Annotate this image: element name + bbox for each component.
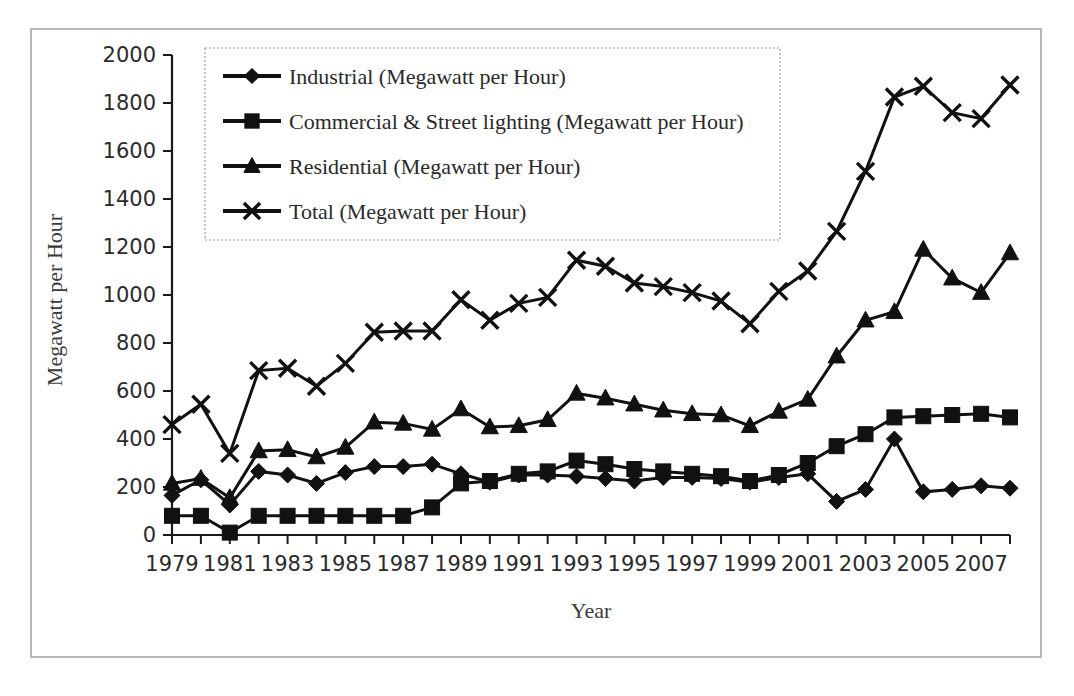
x-tick-label: 1991 bbox=[492, 552, 545, 576]
marker-triangle bbox=[1001, 244, 1018, 260]
y-axis-ticks bbox=[163, 55, 172, 535]
marker-square bbox=[482, 474, 497, 489]
marker-square bbox=[598, 457, 613, 472]
x-tick-label: 1997 bbox=[665, 552, 718, 576]
marker-x bbox=[915, 78, 932, 95]
y-tick-label: 1200 bbox=[103, 235, 156, 259]
marker-diamond bbox=[1002, 480, 1018, 496]
marker-diamond bbox=[366, 459, 382, 475]
marker-x bbox=[192, 396, 209, 413]
marker-square bbox=[714, 469, 729, 484]
x-tick-label: 1987 bbox=[376, 552, 429, 576]
y-tick-label: 200 bbox=[116, 475, 156, 499]
marker-square bbox=[511, 466, 526, 481]
marker-square bbox=[367, 508, 382, 523]
legend-item-1[interactable]: Commercial & Street lighting (Megawatt p… bbox=[223, 109, 744, 134]
marker-diamond bbox=[915, 484, 931, 500]
marker-square bbox=[887, 410, 902, 425]
y-axis-tick-labels: 0200400600800100012001400160018002000 bbox=[103, 43, 156, 547]
marker-square bbox=[251, 508, 266, 523]
marker-square bbox=[771, 468, 786, 483]
marker-x bbox=[857, 163, 874, 180]
marker-square bbox=[338, 508, 353, 523]
marker-square bbox=[742, 474, 757, 489]
x-tick-label: 1989 bbox=[434, 552, 487, 576]
marker-triangle bbox=[915, 240, 932, 256]
marker-square bbox=[193, 508, 208, 523]
marker-square bbox=[425, 500, 440, 515]
x-tick-label: 2005 bbox=[897, 552, 950, 576]
series-0 bbox=[164, 431, 1018, 513]
x-axis-ticks bbox=[172, 535, 1010, 544]
x-axis-title: Year bbox=[571, 598, 612, 623]
marker-triangle bbox=[452, 400, 469, 416]
x-tick-label: 2003 bbox=[839, 552, 892, 576]
marker-diamond bbox=[597, 471, 613, 487]
legend-label: Total (Megawatt per Hour) bbox=[289, 199, 526, 224]
chart-legend: Industrial (Megawatt per Hour)Commercial… bbox=[205, 48, 780, 240]
marker-square bbox=[540, 464, 555, 479]
marker-x bbox=[481, 312, 498, 329]
marker-diamond bbox=[337, 465, 353, 481]
marker-diamond bbox=[858, 481, 874, 497]
y-tick-label: 1000 bbox=[103, 283, 156, 307]
marker-square bbox=[656, 464, 671, 479]
x-axis-tick-labels: 1979198119831985198719891991199319951997… bbox=[145, 552, 1008, 576]
marker-square bbox=[1003, 410, 1018, 425]
series-line bbox=[172, 439, 1010, 505]
marker-square bbox=[800, 456, 815, 471]
marker-square bbox=[829, 439, 844, 454]
marker-square bbox=[165, 508, 180, 523]
marker-diamond bbox=[308, 475, 324, 491]
marker-square bbox=[627, 462, 642, 477]
marker-x bbox=[308, 378, 325, 395]
line-chart: 0200400600800100012001400160018002000 19… bbox=[0, 0, 1074, 696]
legend-label: Residential (Megawatt per Hour) bbox=[289, 154, 580, 179]
marker-square bbox=[453, 476, 468, 491]
x-tick-label: 1985 bbox=[319, 552, 372, 576]
marker-diamond bbox=[886, 431, 902, 447]
marker-square bbox=[945, 408, 960, 423]
legend-label: Industrial (Megawatt per Hour) bbox=[289, 64, 566, 89]
x-tick-label: 1979 bbox=[145, 552, 198, 576]
marker-x bbox=[221, 445, 238, 462]
marker-square bbox=[916, 409, 931, 424]
marker-x bbox=[799, 263, 816, 280]
marker-x bbox=[741, 315, 758, 332]
marker-square bbox=[974, 406, 989, 421]
marker-diamond bbox=[944, 481, 960, 497]
y-tick-label: 1400 bbox=[103, 187, 156, 211]
chart-container: 0200400600800100012001400160018002000 19… bbox=[0, 0, 1074, 696]
y-axis-title: Megawatt per Hour bbox=[42, 213, 67, 386]
marker-square bbox=[245, 114, 259, 128]
y-tick-label: 1800 bbox=[103, 91, 156, 115]
y-tick-label: 0 bbox=[143, 523, 156, 547]
marker-x bbox=[713, 293, 730, 310]
marker-square bbox=[685, 466, 700, 481]
y-tick-label: 400 bbox=[116, 427, 156, 451]
marker-diamond bbox=[280, 467, 296, 483]
marker-x bbox=[770, 283, 787, 300]
marker-x bbox=[886, 89, 903, 106]
marker-triangle bbox=[886, 303, 903, 319]
marker-diamond bbox=[569, 468, 585, 484]
y-tick-label: 1600 bbox=[103, 139, 156, 163]
x-tick-label: 1981 bbox=[203, 552, 256, 576]
marker-square bbox=[309, 508, 324, 523]
marker-square bbox=[396, 508, 411, 523]
series-markers bbox=[164, 431, 1018, 513]
x-tick-label: 2007 bbox=[954, 552, 1007, 576]
y-tick-label: 800 bbox=[116, 331, 156, 355]
marker-x bbox=[828, 223, 845, 240]
marker-diamond bbox=[424, 456, 440, 472]
marker-diamond bbox=[973, 478, 989, 494]
marker-square bbox=[569, 453, 584, 468]
marker-square bbox=[222, 525, 237, 540]
x-tick-label: 1993 bbox=[550, 552, 603, 576]
y-tick-label: 600 bbox=[116, 379, 156, 403]
x-tick-label: 1995 bbox=[608, 552, 661, 576]
legend-label: Commercial & Street lighting (Megawatt p… bbox=[289, 109, 744, 134]
y-tick-label: 2000 bbox=[103, 43, 156, 67]
marker-x bbox=[452, 291, 469, 308]
marker-diamond bbox=[395, 459, 411, 475]
